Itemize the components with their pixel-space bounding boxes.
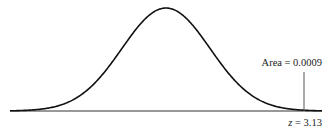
z-label: z = 3.13	[287, 117, 322, 128]
normal-curve-figure: Area = 0.0009 z = 3.13	[0, 0, 333, 130]
chart-svg: Area = 0.0009 z = 3.13	[0, 0, 333, 130]
area-label: Area = 0.0009	[262, 57, 322, 68]
z-value: = 3.13	[292, 117, 322, 128]
